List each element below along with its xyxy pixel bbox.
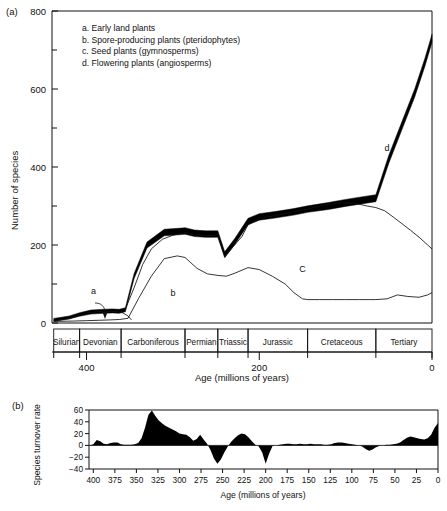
panel-a-x-axis-title: Age (millions of years) xyxy=(195,372,289,383)
y-tick-label: 400 xyxy=(30,162,46,173)
panel-a-x-ticks: 4002000 xyxy=(54,352,435,373)
panel-b-x-tick-label: 175 xyxy=(280,475,294,485)
panel-b-y-tick-label: 0 xyxy=(78,440,83,450)
panel-b-x-tick-label: 25 xyxy=(412,475,422,485)
y-tick-label: 0 xyxy=(41,318,46,329)
panel-b-x-tick-label: 50 xyxy=(390,475,400,485)
panel-b-label: (b) xyxy=(12,400,24,411)
legend-entry-2: c. Seed plants (gymnosperms) xyxy=(82,46,199,56)
panel-b-x-tick-label: 250 xyxy=(216,475,230,485)
curve-label-d: d xyxy=(385,143,390,153)
annotation-a-arrowhead xyxy=(103,312,108,319)
panel-a-curves xyxy=(54,34,432,321)
panel-b-y-tick-label: −20 xyxy=(69,452,83,462)
panel-b-x-tick-label: 300 xyxy=(173,475,187,485)
x-tick-label: 0 xyxy=(429,362,434,373)
x-tick-label: 400 xyxy=(79,362,95,373)
period-label: Triassic xyxy=(219,338,247,347)
panel-a-y-ticks: 0200400600800 xyxy=(30,6,58,329)
curve-total-thick xyxy=(54,34,432,321)
panel-b-x-tick-label: 350 xyxy=(129,475,143,485)
curve-label-b: b xyxy=(170,288,175,298)
panel-b-y-tick-label: −40 xyxy=(69,464,83,474)
panel-b-y-tick-label: 40 xyxy=(74,417,84,427)
period-label: Jurassic xyxy=(263,338,293,347)
period-label: Devonian xyxy=(83,338,118,347)
period-label: Carboniferous xyxy=(127,338,178,347)
panel-b-y-ticks: 6040200−20−40 xyxy=(69,405,89,474)
panel-b-x-tick-label: 75 xyxy=(369,475,379,485)
panel-b-x-tick-label: 125 xyxy=(323,475,337,485)
figure-svg: (a) Number of species 0200400600800 4002… xyxy=(0,0,447,511)
legend-entry-3: d. Flowering plants (angiosperms) xyxy=(82,58,212,68)
period-label: Tertiary xyxy=(391,338,419,347)
panel-b-y-tick-label: 60 xyxy=(74,405,84,415)
panel-b-x-tick-label: 100 xyxy=(345,475,359,485)
panel-b-x-tick-label: 0 xyxy=(436,475,441,485)
panel-a-y-axis-title: Number of species xyxy=(9,151,20,230)
panel-a-label: (a) xyxy=(6,6,18,17)
panel-b-y-tick-label: 20 xyxy=(74,429,84,439)
curve-label-c: C xyxy=(299,264,306,274)
figure-caption-partial xyxy=(0,502,447,511)
y-tick-label: 200 xyxy=(30,240,46,251)
y-tick-label: 600 xyxy=(30,84,46,95)
period-label: Silurian xyxy=(53,338,81,347)
turnover-area xyxy=(89,411,438,464)
curve-label-a: a xyxy=(91,286,96,296)
panel-b: (b) Species turnover rate 6040200−20−40 … xyxy=(12,400,441,500)
panel-b-x-tick-label: 275 xyxy=(194,475,208,485)
figure-container: (a) Number of species 0200400600800 4002… xyxy=(0,0,447,511)
legend-entry-0: a. Early land plants xyxy=(82,23,155,33)
period-label: Permian xyxy=(186,338,217,347)
panel-b-y-axis-title: Species turnover rate xyxy=(32,404,42,486)
legend-entry-1: b. Spore-producing plants (pteridophytes… xyxy=(82,35,240,45)
panel-b-x-axis-title: Age (millions of years) xyxy=(220,490,305,500)
panel-a: (a) Number of species 0200400600800 4002… xyxy=(6,6,435,384)
period-label: Cretaceous xyxy=(321,338,363,347)
y-tick-label: 800 xyxy=(30,6,46,17)
panel-b-turnover-area xyxy=(89,411,438,464)
panel-b-x-tick-label: 325 xyxy=(151,475,165,485)
panel-b-x-tick-label: 400 xyxy=(86,475,100,485)
period-band-row: SilurianDevonianCarboniferousPermianTria… xyxy=(53,329,432,352)
panel-b-x-tick-label: 375 xyxy=(108,475,122,485)
panel-b-x-ticks: 4003753503253002752502252001751501251007… xyxy=(86,469,440,485)
panel-b-x-tick-label: 225 xyxy=(237,475,251,485)
panel-a-legend: a. Early land plantsb. Spore-producing p… xyxy=(82,23,240,68)
panel-b-x-tick-label: 200 xyxy=(259,475,273,485)
panel-b-x-tick-label: 150 xyxy=(302,475,316,485)
